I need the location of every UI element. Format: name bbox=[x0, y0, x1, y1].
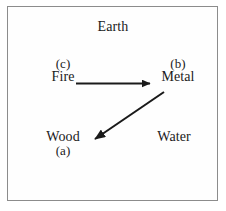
node-metal: (b) Metal bbox=[148, 57, 208, 85]
figure-border bbox=[7, 6, 218, 201]
node-fire-label: Fire bbox=[36, 70, 90, 84]
diagram-root: Earth (c) Fire (b) Metal Wood (a) Water bbox=[0, 0, 226, 211]
node-earth: Earth bbox=[82, 20, 144, 34]
node-metal-label: Metal bbox=[148, 70, 208, 84]
node-wood-tag: (a) bbox=[32, 144, 94, 157]
node-water-label: Water bbox=[144, 130, 204, 144]
node-earth-label: Earth bbox=[82, 20, 144, 34]
node-wood-label: Wood bbox=[32, 130, 94, 144]
node-fire-tag: (c) bbox=[36, 57, 90, 70]
node-fire: (c) Fire bbox=[36, 57, 90, 85]
node-metal-tag: (b) bbox=[148, 57, 208, 70]
node-wood: Wood (a) bbox=[32, 130, 94, 158]
node-water: Water bbox=[144, 130, 204, 144]
